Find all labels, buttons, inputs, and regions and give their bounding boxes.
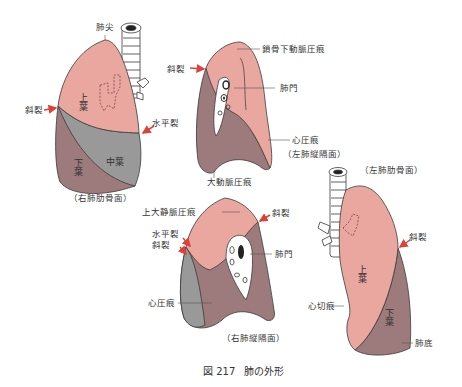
- upper-lobe-label: 上葉: [357, 265, 366, 283]
- left-lung-mediastinal-view: [190, 42, 290, 178]
- aortic-groove-label: 大動脈圧痕: [207, 178, 252, 187]
- svc-groove-label: 上大静脈圧痕: [142, 208, 196, 217]
- horizontal-fissure-label: 水平裂: [152, 119, 179, 128]
- cardiac-notch-label: 心切痕: [308, 302, 335, 311]
- subclavian-groove-label: 鎖骨下動脈圧痕: [262, 45, 325, 54]
- left-lung-costal-view: [318, 168, 413, 356]
- view-caption-left-mediastinal: （左肺縦隔面）: [283, 150, 346, 159]
- oblique-fissure-arrow: [44, 108, 56, 110]
- figure-number: 図 217: [203, 366, 235, 377]
- upper-lobe-label: 上葉: [78, 93, 87, 111]
- oblique-fissure-label: 斜裂: [167, 65, 185, 74]
- middle-lobe-label: 中葉: [106, 158, 124, 167]
- base-label: 肺底: [415, 339, 433, 348]
- apex-label: 肺尖: [96, 23, 114, 32]
- hilum-label: 肺門: [275, 250, 293, 259]
- hilum-label: 肺門: [280, 84, 298, 93]
- oblique-fissure-label: 斜裂: [25, 106, 43, 115]
- right-lung-mediastinal-view: [178, 198, 275, 328]
- cardiac-impression-label: 心圧痕: [292, 136, 319, 145]
- view-caption-right-mediastinal: （右肺縦隔面）: [222, 334, 285, 343]
- right-lung-costal-view: [44, 23, 154, 194]
- oblique-fissure-label: 斜裂: [409, 233, 427, 242]
- figure-caption: 図 217肺の外形: [203, 363, 284, 378]
- oblique-fissure-label: 斜裂: [272, 209, 290, 218]
- lower-lobe-label: 下葉: [73, 158, 82, 176]
- horizontal-fissure-label: 水平裂: [152, 230, 179, 239]
- oblique-fissure-label: 斜裂: [152, 241, 170, 250]
- lower-lobe-label: 下葉: [384, 308, 393, 326]
- view-caption-left-costal: （左肺肋骨面）: [360, 166, 423, 175]
- cardiac-impression-label: 心圧痕: [148, 299, 175, 308]
- figure-title: 肺の外形: [244, 366, 284, 377]
- view-caption-right-costal: （右肺肋骨面）: [69, 194, 132, 203]
